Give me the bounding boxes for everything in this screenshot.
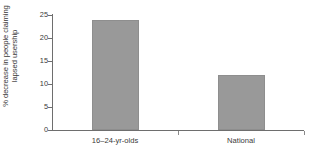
y-tick-label: 10 (32, 80, 48, 88)
y-tick-mark (48, 61, 52, 62)
x-tick-mark (178, 131, 179, 135)
bar-chart-figure: % decrease in people claiming lapsed use… (0, 0, 315, 159)
y-tick-label: 5 (32, 103, 48, 111)
y-axis-title: % decrease in people claiming lapsed use… (1, 0, 31, 119)
y-tick-mark (48, 15, 52, 16)
y-tick-mark (48, 107, 52, 108)
y-axis-title-line-1: % decrease in people claiming (1, 0, 10, 119)
y-tick-mark (48, 130, 52, 131)
bar (218, 75, 265, 130)
y-tick-label: 20 (32, 34, 48, 42)
y-tick-label: 25 (32, 11, 48, 19)
x-category-label: 16–24-yr-olds (52, 136, 178, 145)
bars-layer (52, 15, 304, 130)
y-axis-tick-labels: 0510152025 (30, 0, 48, 159)
y-tick-label: 0 (32, 126, 48, 134)
x-tick-mark (304, 131, 305, 135)
y-tick-label: 15 (32, 57, 48, 65)
y-tick-mark (48, 84, 52, 85)
bar (92, 20, 139, 130)
x-category-label: National (178, 136, 304, 145)
y-tick-mark (48, 38, 52, 39)
x-axis-category-labels: 16–24-yr-oldsNational (52, 136, 304, 150)
y-axis-title-line-2: lapsed usership (10, 0, 19, 119)
